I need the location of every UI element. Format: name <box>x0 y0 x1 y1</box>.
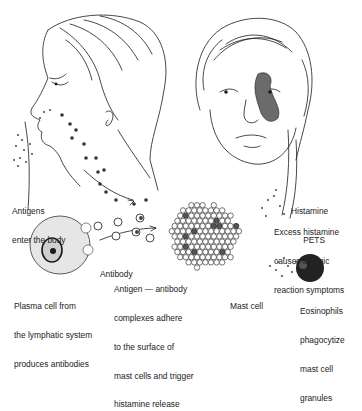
antibody-particles <box>94 214 154 242</box>
label-mast-cell: Mast cell <box>230 283 263 321</box>
label-complexes: Antigen — antibody complexes adhere to t… <box>114 266 194 411</box>
label-line: produces antibodies <box>14 360 92 370</box>
label-line: causes allergic <box>274 257 344 267</box>
label-line: Excess histamine <box>274 228 344 238</box>
label-line: Antigen — antibody <box>114 285 194 295</box>
label-plasma-cell: Plasma cell from the lymphatic system pr… <box>14 283 92 379</box>
label-line: Plasma cell from <box>14 302 92 312</box>
label-line: enter the body <box>12 236 66 246</box>
label-line: mast cell <box>300 365 345 375</box>
label-line: Mast cell <box>230 302 263 312</box>
mast-cell-illustration <box>169 203 242 271</box>
antigen-flow-arrow <box>84 170 133 200</box>
label-line: complexes adhere <box>114 314 194 324</box>
label-eosinophils: Eosinophils phagocytize mast cell granul… <box>300 288 345 411</box>
label-line: mast cells and trigger <box>114 372 194 382</box>
profile-head-illustration <box>31 15 166 190</box>
label-line: Antigens <box>12 207 66 217</box>
label-line: histamine release <box>114 400 194 410</box>
label-line: granules <box>300 394 345 404</box>
label-line: phagocytize <box>300 336 345 346</box>
label-antigens: Antigens enter the body <box>12 188 66 255</box>
label-line: Eosinophils <box>300 307 345 317</box>
rash-illustration <box>255 73 279 122</box>
label-line: to the surface of <box>114 343 194 353</box>
label-line: the lymphatic system <box>14 331 92 341</box>
